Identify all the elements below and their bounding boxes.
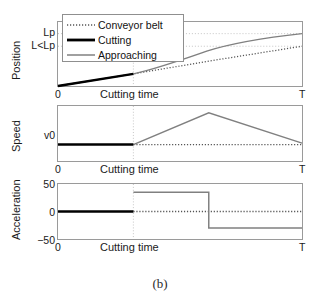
position-ytick-lp: Lp [0, 26, 55, 38]
accel-ytick-neg50-wrap: −50 [0, 234, 55, 246]
acceleration-xtick-zero: 0 [55, 241, 61, 253]
position-ytick-l: L<Lp [0, 39, 55, 51]
legend-label-conveyor-belt: Conveyor belt [98, 19, 163, 31]
accel-ytick-50-wrap: 50 [0, 178, 55, 190]
speed-ytick-v0-wrap: v0 [0, 129, 55, 141]
legend-item-conveyor-belt: Conveyor belt [66, 18, 180, 32]
figure-panel-b: Position Lp L<Lp 0 Cutting time T [0, 0, 320, 306]
acceleration-ytick-0: 0 [0, 206, 55, 218]
acceleration-x-axis-label: Cutting time [100, 241, 159, 253]
speed-ytick-v0: v0 [0, 129, 55, 141]
accel-ytick-0-wrap: 0 [0, 206, 55, 218]
legend: Conveyor belt Cutting Approaching [62, 14, 184, 62]
legend-label-approaching: Approaching [98, 49, 157, 61]
position-ytick-lp-wrap: Lp [0, 26, 55, 38]
speed-xtick-t: T [299, 163, 305, 175]
acceleration-plot-svg [58, 184, 302, 239]
legend-swatch-gray-line [66, 50, 96, 60]
acceleration-ytick-50: 50 [0, 178, 55, 190]
position-ytick-l-wrap: L<Lp [0, 39, 55, 51]
position-x-axis-label: Cutting time [100, 88, 159, 100]
figure-caption: (b) [0, 276, 320, 292]
speed-xtick-zero: 0 [55, 163, 61, 175]
acceleration-plot-area [58, 184, 302, 239]
position-xtick-zero: 0 [55, 88, 61, 100]
legend-label-cutting: Cutting [98, 34, 131, 46]
speed-x-axis-label: Cutting time [100, 163, 159, 175]
position-xtick-t: T [299, 88, 305, 100]
legend-item-cutting: Cutting [66, 33, 180, 47]
acceleration-ytick-minus-50: −50 [0, 234, 55, 246]
acceleration-xtick-t: T [299, 241, 305, 253]
legend-swatch-dotted-line [66, 20, 96, 30]
acceleration-plot-panel [57, 183, 303, 240]
speed-plot-svg [58, 106, 302, 161]
acceleration-series-approaching [133, 192, 302, 228]
speed-series-approaching [133, 113, 302, 145]
legend-item-approaching: Approaching [66, 48, 180, 62]
position-series-cutting [58, 74, 133, 86]
speed-plot-panel [57, 105, 303, 162]
speed-plot-area [58, 106, 302, 161]
legend-swatch-thick-black-line [66, 35, 96, 45]
